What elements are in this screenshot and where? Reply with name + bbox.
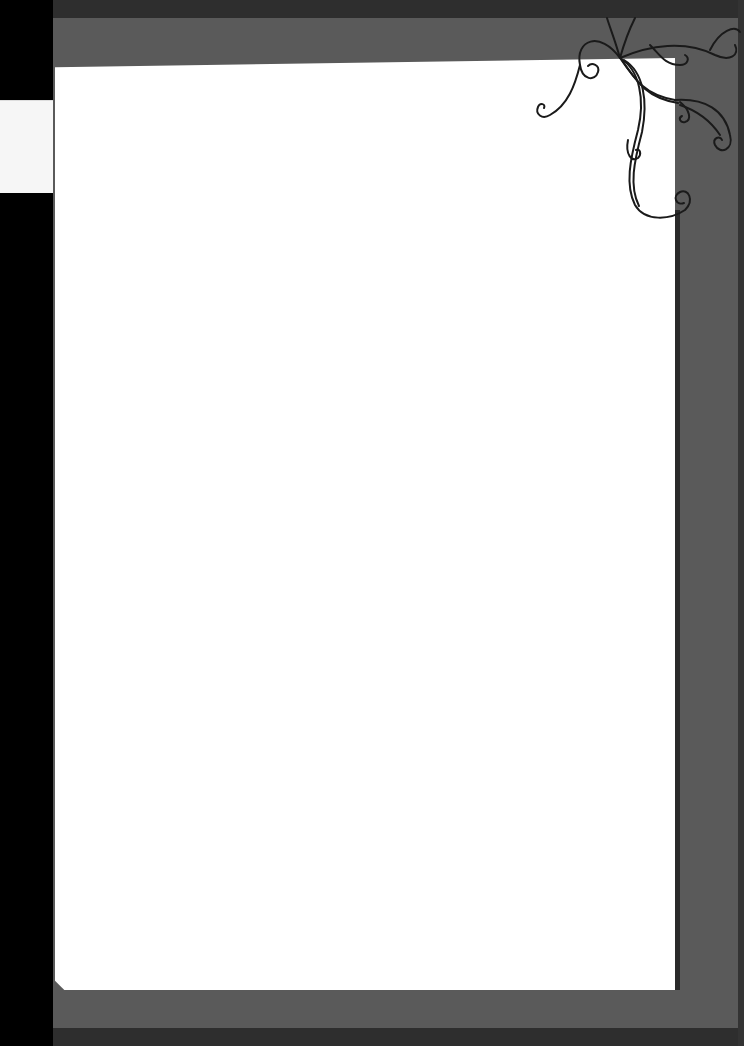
- left-edge-tab: [0, 100, 54, 193]
- frame-bottom-edge: [53, 1028, 744, 1046]
- corner-swirl-icon: [520, 10, 744, 230]
